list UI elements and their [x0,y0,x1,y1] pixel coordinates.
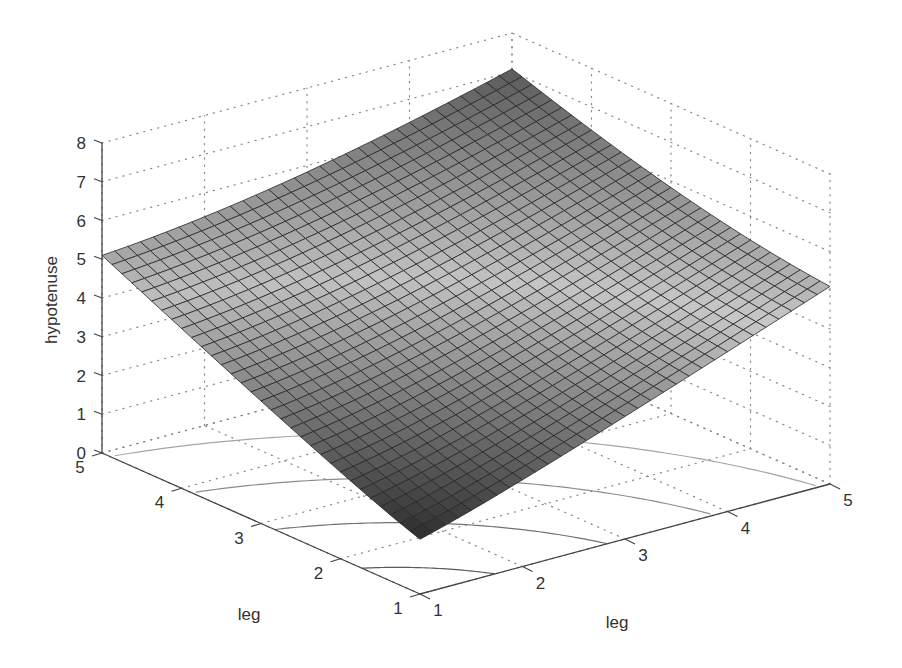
z-tick [94,411,102,414]
z-tick [94,256,102,259]
z-tick-label: 2 [77,367,86,386]
z-tick [94,450,102,453]
surface-plot: 0123456781234512345 hypotenuse leg leg [0,0,902,668]
z-tick [94,140,102,143]
left-leg-tick [92,453,102,456]
z-tick-label: 4 [77,289,86,308]
z-tick [94,295,102,298]
right-leg-tick [728,512,738,517]
left-leg-tick-label: 2 [314,564,323,583]
left-leg-tick-label: 3 [234,529,243,548]
z-tick-label: 6 [77,212,86,231]
z-axis-label: hypotenuse [42,256,61,344]
z-tick-label: 7 [77,173,86,192]
left-leg-tick-label: 5 [75,458,84,477]
right-leg-tick [625,539,635,544]
z-tick [94,179,102,182]
z-tick [94,334,102,337]
left-leg-tick-label: 4 [155,493,164,512]
right-leg-tick-label: 4 [741,519,750,538]
right-leg-tick [830,484,840,489]
contour-line [362,567,495,574]
right-leg-tick-label: 2 [536,574,545,593]
right-leg-tick [523,567,533,572]
surface-mesh [102,69,830,539]
y-axis-label-right: leg [606,613,629,632]
left-leg-tick [251,524,261,527]
right-leg-tick [420,594,430,599]
z-tick-label: 3 [77,328,86,347]
z-tick-label: 8 [77,134,86,153]
z-tick [94,373,102,376]
left-leg-tick-label: 1 [393,599,402,618]
left-leg-tick [172,488,182,491]
left-leg-tick [331,559,341,562]
z-tick-label: 5 [77,250,86,269]
z-tick [94,218,102,221]
z-tick-label: 1 [77,405,86,424]
right-leg-tick-label: 1 [433,601,442,620]
right-leg-tick-label: 5 [843,491,852,510]
x-axis-label-left: leg [238,605,261,624]
right-leg-tick-label: 3 [638,546,647,565]
left-leg-tick [410,594,420,597]
